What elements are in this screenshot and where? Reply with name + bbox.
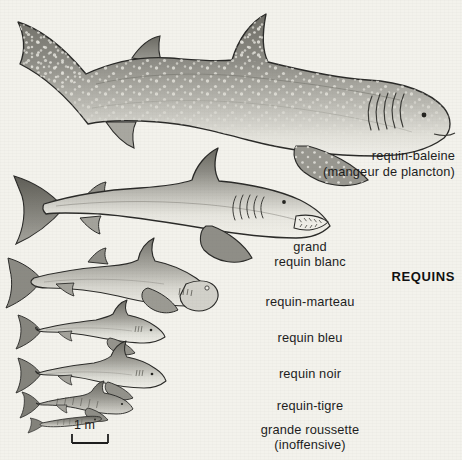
label-requin-baleine: requin-baleine (372, 148, 455, 164)
whale-shark-anal-fin (106, 122, 136, 148)
label-requin-bleu: requin bleu (278, 330, 343, 346)
label-requin-tigre: requin-tigre (277, 398, 344, 414)
hammerhead-second-dorsal-fin (88, 248, 108, 264)
hammerhead-cephalofoil (180, 281, 218, 311)
label-requin-noir: requin noir (279, 366, 341, 382)
blue-shark-caudal-fin (16, 315, 41, 349)
black-shark-eye (151, 373, 154, 376)
tiger-shark-anal-fin (56, 405, 67, 413)
great-white-anal-fin (80, 216, 101, 234)
blue-shark-anal-fin (58, 331, 72, 341)
shark-illustration (0, 0, 462, 460)
blue-shark-body (36, 300, 165, 343)
hammerhead-shark-figure (6, 238, 218, 313)
plate-title: REQUINS (392, 269, 455, 284)
black-shark-body (36, 341, 166, 388)
blue-shark-figure (16, 300, 165, 355)
label-grand-requin-blanc-line2: requin blanc (274, 254, 346, 270)
black-shark-figure (16, 341, 166, 400)
shark-plate: requin-baleine (mangeur de plancton) gra… (0, 0, 462, 460)
hammerhead-eye (205, 286, 209, 290)
black-shark-caudal-fin (16, 358, 41, 393)
tiger-shark-caudal-fin (20, 392, 40, 418)
great-white-eye (282, 200, 286, 204)
blue-shark-eye (150, 329, 153, 332)
label-grand-requin-blanc-line1: grand (293, 239, 326, 255)
whale-shark-eye (422, 113, 427, 118)
label-requin-marteau: requin-marteau (266, 294, 355, 310)
black-shark-anal-fin (58, 375, 72, 385)
great-white-shark-figure (14, 148, 330, 262)
label-grande-roussette: grande roussette (261, 422, 359, 438)
hammerhead-anal-fin (56, 283, 74, 296)
label-grande-roussette-note: (inoffensive) (274, 437, 345, 453)
tiger-shark-eye (121, 403, 123, 405)
scale-bar (72, 434, 108, 443)
label-requin-baleine-note: (mangeur de plancton) (323, 164, 455, 180)
scale-bar-label: 1 m (74, 418, 95, 432)
